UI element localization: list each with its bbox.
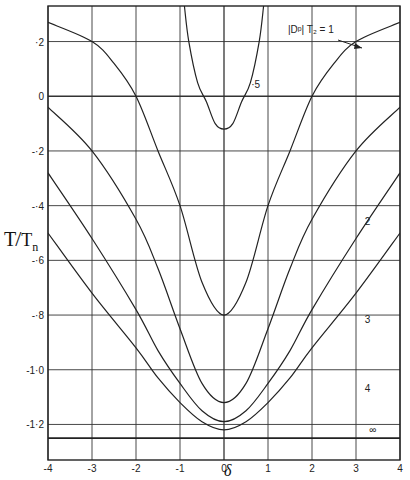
y-tick-label: -·6 (32, 255, 45, 266)
x-axis-title: δ (224, 462, 232, 479)
curve-label: 3 (365, 314, 371, 325)
y-tick-label: -·4 (32, 201, 45, 212)
curve-label: 2 (365, 216, 371, 227)
grid-lines (48, 6, 400, 460)
legend-annotation-text: |Dᵖ| T₂ = 1 (288, 24, 334, 35)
y-tick-label: -1·2 (26, 419, 44, 430)
y-tick-label: -·8 (32, 310, 45, 321)
y-tick-label: -1·0 (26, 365, 44, 376)
curve-label: ∞ (369, 424, 376, 435)
x-tick-label: 4 (397, 463, 403, 474)
x-tick-label: 3 (353, 463, 359, 474)
arrowhead-icon (354, 43, 362, 49)
y-tick-label: -·2 (32, 146, 45, 157)
x-tick-label: -3 (88, 463, 97, 474)
x-tick-label: 2 (309, 463, 315, 474)
y-axis-title: T/Tn (4, 226, 38, 254)
x-tick-label: -2 (132, 463, 141, 474)
y-tick-label: 0 (38, 91, 44, 102)
x-tick-label: 1 (265, 463, 271, 474)
x-tick-label: -4 (44, 463, 53, 474)
curve-label: 4 (365, 383, 371, 394)
y-tick-label: ·2 (35, 37, 44, 48)
chart-canvas: -4-3-2-101234 ·20-·2-·4-·6-·8-1·0-1·2 ·5… (0, 0, 410, 480)
x-tick-label: -1 (176, 463, 185, 474)
curve-label: ·5 (251, 79, 260, 90)
